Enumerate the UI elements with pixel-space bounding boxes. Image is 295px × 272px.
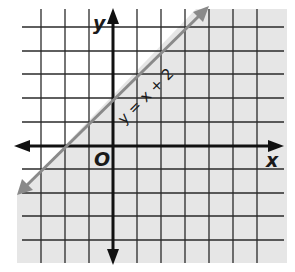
y-axis-label: y bbox=[93, 12, 107, 34]
x-axis-left-arrow-icon bbox=[14, 140, 30, 152]
coordinate-plane: y x O y = x + 2 bbox=[0, 0, 295, 272]
y-axis-up-arrow-icon bbox=[107, 8, 119, 24]
shaded-region bbox=[17, 9, 287, 263]
origin-label: O bbox=[94, 148, 110, 170]
x-axis-label: x bbox=[265, 149, 279, 171]
